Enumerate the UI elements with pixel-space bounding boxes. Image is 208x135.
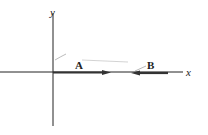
vector-b-arrow xyxy=(131,71,168,76)
vector-b-label: B xyxy=(147,59,155,71)
faint-guide-lines xyxy=(55,54,146,71)
vector-a-label: A xyxy=(75,59,83,71)
y-axis-label: y xyxy=(49,6,55,18)
x-axis-label: x xyxy=(185,66,191,78)
vector-diagram: y x A B xyxy=(0,0,208,135)
